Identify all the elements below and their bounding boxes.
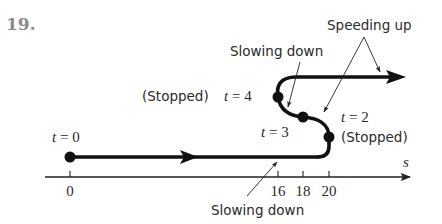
tick-label-20: 20 [322, 183, 337, 199]
label-slowing-down-bottom: Slowing down [211, 202, 304, 218]
point-t3 [298, 112, 309, 123]
tick-label-16: 16 [271, 183, 287, 199]
label-speeding-up: Speeding up [327, 17, 412, 33]
tick-label-18: 18 [296, 183, 311, 199]
label-stopped-t2: (Stopped) [341, 129, 408, 145]
label-t2: t = 2 [341, 109, 369, 125]
s-axis: 0 16 18 20 s [45, 154, 410, 199]
pointer-slowing-down-top [288, 62, 300, 107]
label-t3: t = 3 [261, 124, 289, 140]
label-stopped-t4: (Stopped) [142, 88, 209, 104]
tick-label-0: 0 [66, 183, 74, 199]
axis-variable-label: s [403, 154, 409, 170]
pointer-speeding-up-upper [364, 37, 380, 72]
label-t4: t = 4 [224, 88, 252, 104]
label-slowing-down-top: Slowing down [230, 43, 323, 59]
point-t4 [273, 92, 284, 103]
point-t2 [324, 132, 335, 143]
problem-number: 19. [6, 14, 36, 34]
pointer-speeding-up-lower [324, 37, 364, 112]
point-t0 [65, 152, 76, 163]
label-t0: t = 0 [52, 129, 80, 145]
motion-diagram: 19. 0 16 18 20 s t = 0 t = 2 t = 3 t = 4… [0, 0, 442, 224]
